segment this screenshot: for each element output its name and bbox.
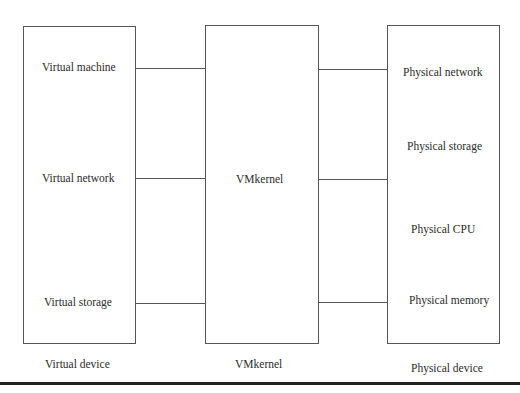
label-physical-cpu: Physical CPU xyxy=(411,223,475,235)
label-physical-storage: Physical storage xyxy=(407,140,482,152)
label-virtual-machine: Virtual machine xyxy=(42,61,116,73)
connector-physical-cpu xyxy=(319,179,387,180)
connector-virtual-storage xyxy=(136,303,205,304)
label-physical-memory: Physical memory xyxy=(409,294,489,306)
connector-virtual-network xyxy=(136,178,205,179)
connector-virtual-machine xyxy=(136,68,205,69)
label-physical-network: Physical network xyxy=(403,66,483,78)
label-virtual-network: Virtual network xyxy=(42,172,114,184)
caption-physical-device: Physical device xyxy=(411,362,483,374)
connector-physical-network xyxy=(319,69,387,70)
label-vmkernel: VMkernel xyxy=(236,173,283,185)
label-virtual-storage: Virtual storage xyxy=(44,296,112,308)
connector-physical-memory xyxy=(319,302,387,303)
caption-virtual-device: Virtual device xyxy=(45,358,110,370)
bottom-rule xyxy=(0,382,520,385)
caption-vmkernel: VMkernel xyxy=(235,358,282,370)
